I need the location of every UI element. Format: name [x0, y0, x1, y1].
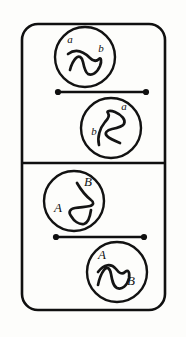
tangle-circle [55, 27, 115, 87]
tangle-label-A: A [53, 200, 62, 215]
tangle-label-a: a [121, 100, 127, 112]
bar-endpoint-left [55, 89, 61, 95]
lower-bar [53, 234, 147, 240]
bar-endpoint-right [143, 89, 149, 95]
upper-bar [55, 89, 149, 95]
lower-right-tangle: A B [87, 242, 147, 302]
bar-endpoint-left [53, 234, 59, 240]
tangle-label-B: B [127, 273, 135, 288]
lower-left-tangle: B A [44, 171, 104, 231]
tangle-label-b: b [91, 125, 97, 137]
tangle-curve [98, 265, 129, 288]
tangle-diagram: a b a b B A [0, 0, 186, 337]
tangle-label-A: A [97, 247, 106, 262]
tangle-label-b: b [98, 42, 104, 54]
upper-right-tangle: a b [81, 98, 141, 158]
upper-left-tangle: a b [55, 27, 115, 87]
tangle-label-B: B [84, 174, 92, 189]
bar-endpoint-right [141, 234, 147, 240]
tangle-curve [68, 51, 101, 75]
figure-root: a b a b B A [0, 0, 186, 337]
tangle-curve [70, 183, 94, 224]
outer-frame [22, 24, 165, 310]
tangle-circle [44, 171, 104, 231]
tangle-label-a: a [67, 33, 73, 45]
tangle-curve [98, 111, 124, 145]
upper-panel: a b a b [55, 27, 149, 158]
lower-panel: B A A B [44, 171, 147, 302]
